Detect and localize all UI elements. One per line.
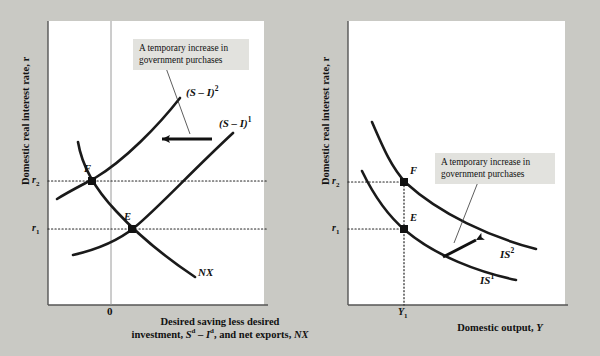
left-origin-label: 0 xyxy=(107,305,113,317)
left-x-axis-title-line1: Desired saving less desired xyxy=(130,316,310,328)
curve-label-is-1: IS1 xyxy=(480,273,494,286)
right-point-label-F: F xyxy=(410,165,417,177)
right-point-label-E: E xyxy=(410,212,417,224)
economics-figure: Domestic real interest rate, r r2 r1 0 F… xyxy=(0,0,600,356)
right-callout-line1: A temporary increase in xyxy=(441,157,548,169)
left-y-axis-title: Domestic real interest rate, r xyxy=(20,57,32,185)
right-callout-box: A temporary increase in government purch… xyxy=(435,153,555,184)
curve-label-s-minus-i-1: (S – I)1 xyxy=(219,116,252,129)
left-point-label-F: F xyxy=(84,163,91,175)
right-y-tick-r2: r2 xyxy=(332,175,339,190)
right-callout-line2: government purchases xyxy=(441,169,548,181)
left-x-axis-title: Desired saving less desired investment, … xyxy=(130,316,310,340)
left-y-tick-r2: r2 xyxy=(32,174,39,189)
curve-label-is-2: IS2 xyxy=(500,247,514,260)
right-x-axis-title-text: Domestic output, Y xyxy=(457,322,542,333)
left-point-F-marker xyxy=(88,177,96,185)
right-point-F-marker xyxy=(400,178,408,186)
left-point-E-marker xyxy=(128,225,136,233)
left-callout-box: A temporary increase in government purch… xyxy=(133,39,249,70)
left-point-label-E: E xyxy=(124,211,131,223)
left-callout-line2: government purchases xyxy=(139,55,242,67)
right-point-E-marker xyxy=(400,225,408,233)
curve-label-nx: NX xyxy=(198,266,213,278)
curve-label-s-minus-i-2: (S – I)2 xyxy=(186,85,219,98)
left-callout-line1: A temporary increase in xyxy=(139,43,242,55)
right-y-axis-title: Domestic real interest rate, r xyxy=(320,57,332,185)
right-y-tick-r1: r1 xyxy=(332,222,339,237)
right-x-axis-title: Domestic output, Y xyxy=(420,322,580,334)
right-x-tick-y1: Y1 xyxy=(398,306,408,321)
left-x-axis-title-line2: investment, Sd – Id, and net exports, NX xyxy=(130,328,310,340)
left-y-tick-r1: r1 xyxy=(32,222,39,237)
